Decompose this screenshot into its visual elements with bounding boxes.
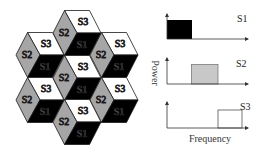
sector-label-s3: S3	[78, 105, 89, 116]
hex-cell-grid: S3 S2 S1 S3 S2 S1 S3 S2 S1 S3	[16, 11, 138, 145]
spectrum-allocation-chart: S1 S2 S3 Power Frequency	[150, 13, 251, 144]
sector-label-s1: S1	[40, 61, 51, 72]
sector-label-s1: S1	[77, 39, 88, 50]
sector-label-s1: S1	[114, 61, 125, 72]
sector-label-s1: S1	[40, 106, 51, 117]
sector-label-s3: S3	[41, 38, 52, 49]
sector-label-s2: S2	[96, 49, 107, 60]
sector-label-s3: S3	[78, 16, 89, 27]
sector-label-s2: S2	[59, 116, 70, 127]
band-s2	[192, 65, 219, 85]
y-axis-label-power: Power	[150, 60, 161, 86]
spectrum-panel-s2: S2	[167, 58, 248, 84]
sector-label-s3: S3	[115, 38, 126, 49]
sector-label-s3: S3	[115, 83, 126, 94]
sector-label-s2: S2	[22, 49, 33, 60]
band-s3	[218, 110, 242, 128]
panel-label-s3: S3	[240, 101, 251, 112]
sector-label-s2: S2	[22, 94, 33, 105]
sector-label-s3: S3	[41, 83, 52, 94]
sector-label-s1: S1	[77, 128, 88, 139]
sector-label-s1: S1	[77, 84, 88, 95]
sectorized-cell-diagram: S3 S2 S1 S3 S2 S1 S3 S2 S1 S3	[0, 0, 261, 155]
spectrum-panel-s3: S3	[167, 101, 251, 128]
band-s1	[167, 20, 192, 39]
sector-label-s2: S2	[59, 72, 70, 83]
sector-label-s2: S2	[59, 27, 70, 38]
x-axis-label-frequency: Frequency	[189, 133, 231, 144]
panel-label-s1: S1	[237, 13, 248, 24]
sector-label-s1: S1	[114, 106, 125, 117]
sector-label-s3: S3	[78, 61, 89, 72]
panel-label-s2: S2	[236, 58, 247, 69]
spectrum-panel-s1: S1	[167, 13, 248, 39]
sector-label-s2: S2	[96, 94, 107, 105]
